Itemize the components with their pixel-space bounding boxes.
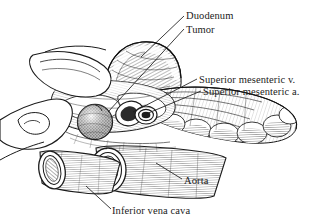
illustration-canvas xyxy=(0,0,323,223)
label-tumor: Tumor xyxy=(186,24,215,35)
label-superior-mesenteric-vein: Superior mesenteric v. xyxy=(199,74,295,85)
label-superior-mesenteric-artery: Superior mesenteric a. xyxy=(203,86,299,97)
anatomical-figure: Duodenum Tumor Superior mesenteric v. Su… xyxy=(0,0,323,223)
superior-mesenteric-artery-vessel xyxy=(135,106,157,124)
label-inferior-vena-cava: Inferior vena cava xyxy=(112,205,190,216)
label-aorta: Aorta xyxy=(184,175,208,186)
label-duodenum: Duodenum xyxy=(186,10,233,21)
